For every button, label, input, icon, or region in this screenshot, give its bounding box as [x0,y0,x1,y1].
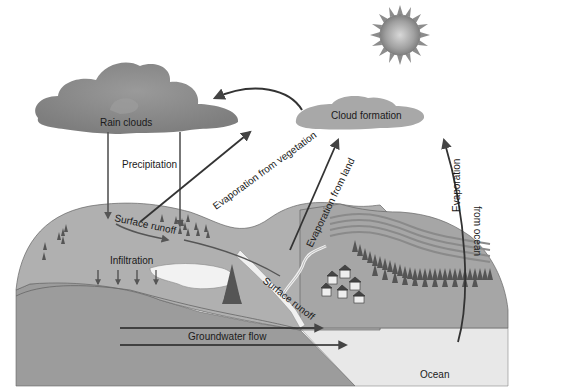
ocean-label: Ocean [420,369,449,380]
cloud-formation-icon: Cloud formation [296,96,424,130]
evap-ocean-label-1: Evaporation [451,159,462,212]
cloud-formation-label: Cloud formation [331,110,402,121]
evap-ocean-label-2: from ocean [472,206,483,256]
rain-clouds-icon: Rain clouds [35,62,238,134]
precipitation-label: Precipitation [122,159,177,170]
sun-icon [370,5,430,65]
rain-clouds-label: Rain clouds [100,117,152,128]
water-cycle-diagram: Rain clouds Cloud formation Ocean [0,0,566,390]
groundwater-flow-label: Groundwater flow [188,331,267,342]
infiltration-label: Infiltration [110,255,153,266]
cloud-transport-arrow-icon [215,89,302,110]
evap-vegetation-arrow-icon [140,132,250,222]
evap-vegetation-label: Evaporation from vegetation [211,129,319,211]
